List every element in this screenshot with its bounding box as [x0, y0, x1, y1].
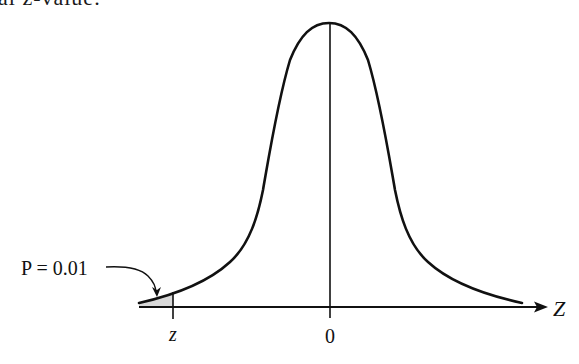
- annotation-arrowhead-icon: [152, 287, 161, 297]
- z-critical-label: z: [168, 323, 177, 345]
- annotation-leader: [106, 267, 156, 293]
- normal-curve-diagram: P = 0.01 z 0 Z: [0, 0, 579, 364]
- zero-label: 0: [325, 325, 335, 347]
- p-value-annotation: P = 0.01: [21, 257, 88, 279]
- axis-z-label: Z: [553, 296, 566, 321]
